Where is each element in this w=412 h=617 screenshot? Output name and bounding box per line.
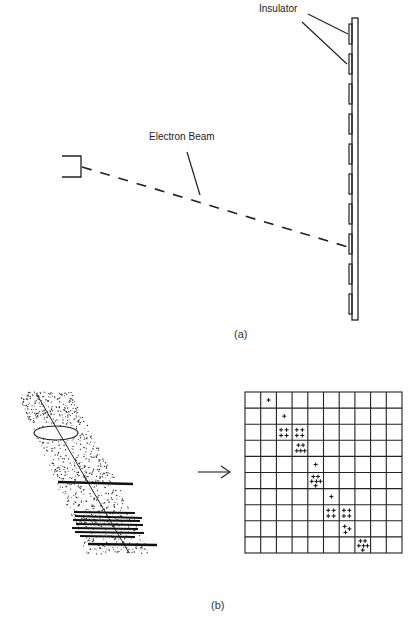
dark-layer-band xyxy=(72,512,144,537)
grid-marks xyxy=(267,398,370,552)
pixel-grid xyxy=(245,392,402,553)
electron-beam-leader xyxy=(187,152,200,195)
arrow-right-icon xyxy=(198,466,230,478)
rock-sample-stipple xyxy=(21,391,148,554)
target-plate xyxy=(352,18,358,320)
caption-b: (b) xyxy=(211,599,224,611)
dark-layer-2 xyxy=(88,544,157,545)
electron-beam-label: Electron Beam xyxy=(149,131,215,142)
insulator-leader-2 xyxy=(302,22,347,64)
electron-gun-icon xyxy=(62,156,81,177)
diagram-canvas xyxy=(0,0,412,617)
caption-a: (a) xyxy=(234,328,247,340)
electron-beam-line xyxy=(82,167,348,247)
insulator-leader-1 xyxy=(308,14,348,34)
insulator-label: Insulator xyxy=(259,3,297,14)
dark-layer-1 xyxy=(58,482,133,484)
